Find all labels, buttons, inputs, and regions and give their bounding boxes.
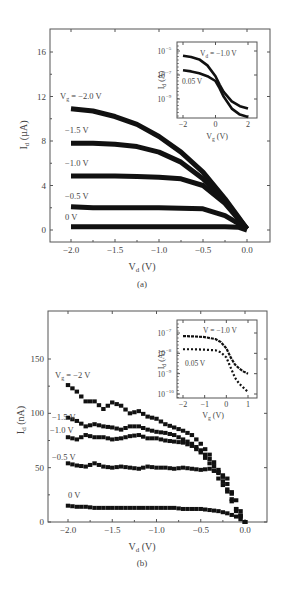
x-tick-label: −2.0 <box>60 525 77 535</box>
data-point <box>66 383 70 387</box>
x-tick-label: −1.5 <box>104 525 121 535</box>
data-point <box>207 457 211 461</box>
data-point <box>75 390 79 394</box>
inset-x-tick-label: 0 <box>224 400 228 409</box>
data-point <box>132 466 136 470</box>
data-point <box>238 517 242 521</box>
data-point <box>141 506 145 510</box>
data-point <box>238 509 242 513</box>
inset-y-tick-label: 10 <box>158 370 166 379</box>
data-point <box>66 504 70 508</box>
data-point <box>207 467 211 471</box>
x-tick-label: −1.0 <box>151 245 168 255</box>
data-point <box>88 463 92 467</box>
data-point <box>150 506 154 510</box>
data-point <box>199 450 203 454</box>
data-point <box>212 509 216 513</box>
data-point <box>128 411 132 415</box>
curve-label: −0.5 V <box>52 452 76 462</box>
data-point <box>207 453 211 457</box>
data-point <box>137 433 141 437</box>
data-point <box>75 437 79 441</box>
y-axis-label: Id (µA) <box>18 121 31 150</box>
data-point <box>154 430 158 434</box>
data-point <box>234 498 238 502</box>
data-point <box>154 436 158 440</box>
data-point <box>154 506 158 510</box>
data-point <box>88 434 92 438</box>
data-point <box>145 415 149 419</box>
data-point <box>199 468 203 472</box>
data-point <box>119 465 123 469</box>
data-point <box>128 466 132 470</box>
inset-y-tick-exponent: −9 <box>166 369 172 374</box>
x-tick-label: 0.0 <box>239 525 251 535</box>
data-point <box>114 402 118 406</box>
x-tick-label: −1.0 <box>148 525 165 535</box>
data-point <box>132 506 136 510</box>
data-point <box>132 434 136 438</box>
data-point <box>185 507 189 511</box>
data-point <box>119 404 123 408</box>
data-point <box>194 507 198 511</box>
inset-x-tick-label: 1 <box>246 400 250 409</box>
data-point <box>106 425 110 429</box>
data-point <box>97 423 101 427</box>
data-point <box>181 507 185 511</box>
data-point <box>150 436 154 440</box>
data-point <box>106 436 110 440</box>
inset-x-tick-label: −2 <box>179 400 188 409</box>
data-point <box>212 468 216 472</box>
data-point <box>221 483 225 487</box>
data-point <box>159 419 163 423</box>
data-point <box>216 477 220 481</box>
y-tick-label: 0 <box>42 225 47 235</box>
data-point <box>234 507 238 511</box>
x-tick-label: −2.0 <box>63 245 80 255</box>
data-point <box>199 507 203 511</box>
inset-curve-label: V = −1.0 V <box>203 326 238 335</box>
data-point <box>97 506 101 510</box>
panel-a-chart: −2.0−1.5−1.0−0.50.00481216Vd (V)Id (µA)(… <box>18 29 270 289</box>
data-point <box>123 465 127 469</box>
data-point <box>203 447 207 451</box>
inset-y-axis-label: Id (A) <box>157 350 167 369</box>
data-point <box>79 464 83 468</box>
data-point <box>145 506 149 510</box>
data-point <box>101 407 105 411</box>
inset-y-tick-exponent: −10 <box>166 389 174 394</box>
data-point <box>66 435 70 439</box>
x-tick-label: −0.5 <box>193 525 210 535</box>
data-point <box>172 506 176 510</box>
data-point <box>101 465 105 469</box>
data-point <box>132 410 136 414</box>
inset-y-axis-label: Id (A) <box>157 70 167 89</box>
curve-label: 0 V <box>68 490 81 500</box>
data-point <box>128 434 132 438</box>
inset-curve-label: 0.05 V <box>182 77 203 86</box>
data-point <box>203 508 207 512</box>
data-point <box>243 520 247 524</box>
data-point <box>101 435 105 439</box>
data-point <box>123 506 127 510</box>
data-point <box>194 467 198 471</box>
data-point <box>79 394 83 398</box>
data-curve <box>71 176 247 229</box>
data-point <box>230 513 234 517</box>
data-point <box>101 424 105 428</box>
data-point <box>123 435 127 439</box>
data-point <box>141 426 145 430</box>
data-point <box>141 466 145 470</box>
y-tick-label: 8 <box>42 136 47 146</box>
data-point <box>137 424 141 428</box>
data-point <box>190 433 194 437</box>
data-point <box>203 467 207 471</box>
data-point <box>88 423 92 427</box>
data-point <box>230 492 234 496</box>
inset-chart: −2−10110−710−810−910−10V = −1.0 V0.05 VV… <box>157 320 257 421</box>
curve-label: −0.5 V <box>65 191 89 201</box>
data-point <box>141 412 145 416</box>
inset-x-tick-label: −1 <box>200 400 209 409</box>
data-point <box>225 477 229 481</box>
x-tick-label: 0.0 <box>241 245 253 255</box>
